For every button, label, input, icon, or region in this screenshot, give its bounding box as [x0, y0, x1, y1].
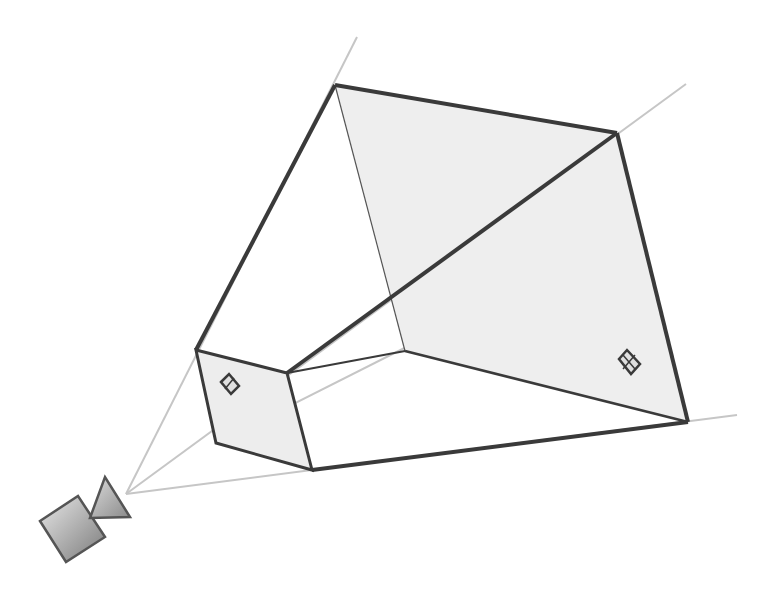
edge-top-left: [196, 85, 335, 350]
camera-icon: [40, 477, 130, 562]
edge-bottom: [312, 422, 688, 470]
camera-lens: [90, 477, 130, 518]
far-clipping-plane: [335, 85, 688, 422]
frustum-diagram: [0, 0, 764, 595]
